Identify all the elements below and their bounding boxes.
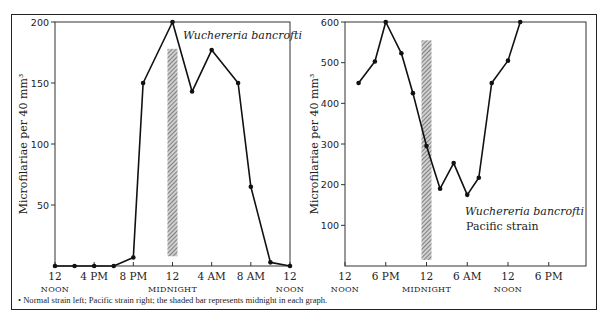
data-point [141, 81, 146, 86]
data-point [424, 144, 429, 149]
figure-canvas: 5010015020012NOON4 PM8 PM12MIDNIGHT4 AM8… [0, 0, 609, 318]
pacific-strain-chart: 10020030040050060012NOON6 PM12MIDNIGHT6 … [308, 17, 586, 295]
x-tick-label: 4 AM [197, 270, 226, 282]
data-point [356, 81, 361, 86]
x-tick-sublabel: NOON [494, 285, 522, 294]
figure-caption: • Normal strain left; Pacific strain rig… [18, 295, 327, 305]
chart-title: Wuchereria bancrofti [183, 29, 302, 42]
data-point [438, 186, 443, 191]
midnight-shaded-bar [422, 40, 432, 260]
x-tick-sublabel: NOON [41, 285, 69, 294]
x-tick-label: 6 PM [535, 270, 563, 282]
y-tick-label: 100 [31, 139, 49, 150]
data-point [72, 264, 77, 269]
x-tick-sublabel: NOON [331, 285, 359, 294]
y-tick-label: 150 [31, 78, 49, 89]
x-tick-label: 12 [338, 270, 351, 282]
data-point [489, 81, 494, 86]
x-tick-label: 12 [420, 270, 433, 282]
data-point [170, 20, 175, 25]
midnight-shaded-bar [168, 49, 178, 256]
data-point [506, 58, 511, 63]
chart-subtitle: Pacific strain [466, 220, 539, 233]
x-tick-sublabel: NOON [276, 285, 304, 294]
x-tick-sublabel: MIDNIGHT [148, 285, 197, 294]
y-tick-label: 600 [321, 17, 339, 28]
x-tick-sublabel: MIDNIGHT [402, 285, 451, 294]
x-tick-label: 6 PM [372, 270, 400, 282]
x-tick-label: 8 AM [237, 270, 266, 282]
normal-strain-chart: 5010015020012NOON4 PM8 PM12MIDNIGHT4 AM8… [17, 17, 304, 295]
data-point [399, 51, 404, 56]
data-point [111, 264, 116, 269]
data-point [465, 193, 470, 198]
data-point [209, 48, 214, 53]
data-point [288, 264, 293, 269]
data-point [92, 264, 97, 269]
data-point [268, 260, 273, 265]
data-point [476, 175, 481, 180]
data-point [53, 264, 58, 269]
y-tick-label: 50 [37, 200, 49, 211]
y-tick-label: 100 [321, 220, 339, 231]
x-tick-label: 8 PM [119, 270, 147, 282]
data-point [249, 184, 254, 189]
y-axis-label: Microfilariae per 40 mm³ [17, 74, 30, 215]
y-axis-label: Microfilariae per 40 mm³ [308, 74, 321, 215]
data-point [190, 89, 195, 94]
data-point [518, 20, 523, 25]
y-tick-label: 200 [321, 179, 339, 190]
data-line [359, 22, 521, 195]
data-point [373, 59, 378, 64]
y-tick-label: 300 [321, 139, 339, 150]
x-tick-label: 12 [283, 270, 296, 282]
y-tick-label: 200 [31, 17, 49, 28]
x-tick-label: 4 PM [80, 270, 108, 282]
data-point [411, 91, 416, 96]
x-tick-label: 12 [166, 270, 179, 282]
data-point [131, 255, 136, 260]
y-tick-label: 400 [321, 98, 339, 109]
y-tick-label: 500 [321, 57, 339, 68]
data-point [236, 81, 241, 86]
x-tick-label: 12 [48, 270, 61, 282]
data-point [451, 161, 456, 166]
x-tick-label: 12 [501, 270, 514, 282]
data-point [383, 20, 388, 25]
chart-title: Wuchereria bancrofti [465, 205, 584, 218]
x-tick-label: 6 AM [453, 270, 482, 282]
